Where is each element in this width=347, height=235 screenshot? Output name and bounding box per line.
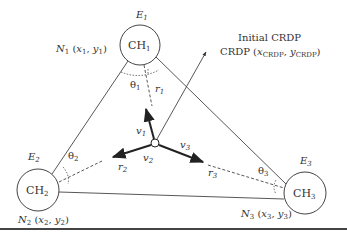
crdp-coords-label: CRDP (xCRDP, yCRDP) — [220, 47, 321, 59]
edge-ch1-ch3 — [156, 57, 286, 184]
v1-arrow — [146, 109, 154, 139]
edge-ch1-ch2 — [52, 61, 128, 174]
theta1-arc — [121, 70, 159, 76]
v1-label: v1 — [136, 126, 146, 138]
distance-lines — [59, 65, 284, 188]
crdp-center-node — [151, 139, 159, 147]
r2-label: r2 — [118, 162, 127, 174]
triangle-edges — [52, 57, 286, 199]
n2-label: N2 (x2, y2) — [18, 215, 69, 227]
r3-label: r3 — [208, 168, 217, 180]
ch1-label: CH1 — [128, 40, 150, 53]
r1-line — [144, 65, 152, 106]
theta2-arc — [63, 167, 68, 184]
n1-label: N1 (x1, y1) — [56, 44, 107, 56]
e2-label: E2 — [28, 152, 40, 164]
n3-label: N3 (x3, y3) — [241, 209, 292, 221]
force-vectors — [113, 109, 203, 162]
r2-line — [59, 161, 102, 182]
r3-line — [208, 165, 284, 188]
angle-arcs — [63, 69, 276, 194]
bottom-rule — [0, 228, 347, 230]
theta3-label: θ3 — [258, 166, 269, 178]
initial-crdp-title: Initial CRDP — [238, 33, 301, 43]
r1-label: r1 — [155, 84, 164, 96]
ch3-label: CH3 — [293, 188, 315, 201]
theta2-label: θ2 — [68, 151, 79, 163]
edge-ch2-ch3 — [59, 192, 284, 199]
theta1-label: θ1 — [130, 80, 141, 92]
theta3-arc — [274, 180, 276, 194]
ch2-label: CH2 — [26, 185, 48, 198]
v3-label: v3 — [180, 140, 190, 152]
v2-label: v2 — [143, 153, 153, 165]
e1-label: E1 — [136, 10, 148, 22]
e3-label: E3 — [300, 156, 312, 168]
